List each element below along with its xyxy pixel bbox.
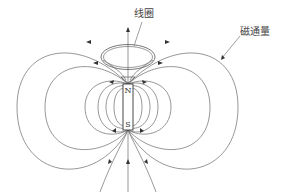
field-line-bottom-left (100, 130, 128, 192)
field-line-right-outer (128, 53, 238, 169)
coil-leader-line (134, 22, 142, 46)
arrow-axis-bottom (126, 159, 130, 164)
arrow-right-outer-top (165, 40, 170, 44)
flux-label: 磁通量 (240, 27, 270, 37)
arrow-right-inner-bottom (140, 128, 144, 133)
coil-label: 线圈 (134, 9, 154, 19)
flux-leader-line (222, 36, 240, 58)
arrow-left-outer-top (86, 40, 91, 44)
arrow-bottom-left (108, 159, 112, 164)
arrow-axis-top (126, 27, 130, 32)
field-line-left-outer (17, 53, 128, 169)
field-line-right-2 (128, 67, 210, 150)
south-pole-label: S (125, 120, 130, 129)
field-line-left-2 (45, 67, 128, 150)
arrow-right-2-top (158, 61, 163, 65)
north-pole-label: N (125, 86, 132, 95)
arrow-bottom-right (144, 159, 148, 164)
arrow-flux-leader (221, 55, 225, 60)
arrow-left-inner-bottom (112, 128, 116, 133)
arrow-left-2-top (93, 61, 98, 65)
field-line-bottom-right (128, 130, 156, 192)
